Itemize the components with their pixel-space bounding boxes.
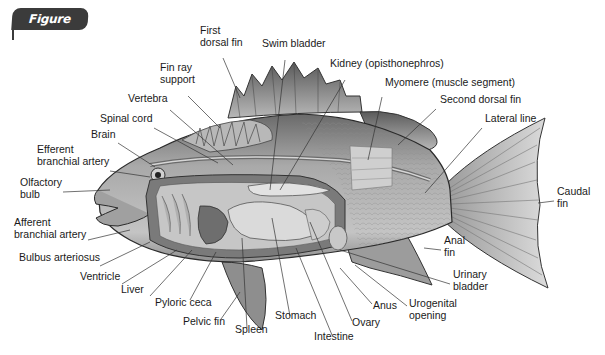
label-bulbus-arteriosus: Bulbus arteriosus — [19, 251, 100, 263]
leader-caudal-fin — [538, 201, 554, 203]
myomere-panel — [350, 146, 392, 190]
label-pyloric-ceca: Pyloric ceca — [155, 296, 212, 308]
label-ventricle: Ventricle — [80, 270, 120, 282]
urinary-bladder-shape — [329, 226, 347, 250]
label-lateral-line: Lateral line — [485, 112, 536, 124]
label-liver: Liver — [121, 283, 144, 295]
label-pelvic-fin: Pelvic fin — [183, 315, 225, 327]
label-stomach: Stomach — [275, 309, 316, 321]
label-efferent-branchial-artery: Efferent branchial artery — [37, 143, 109, 167]
leader-liver — [150, 250, 192, 296]
fish-anatomy-figure: Figure 15.20 First dorsal finSwim bladde… — [0, 0, 605, 355]
label-afferent-branchial-artery: Afferent branchial artery — [14, 216, 86, 240]
label-anus: Anus — [373, 299, 397, 311]
label-swim-bladder: Swim bladder — [262, 37, 326, 49]
label-first-dorsal-fin: First dorsal fin — [200, 24, 243, 48]
leader-anal-fin — [424, 248, 441, 250]
leader-fin-ray-support — [188, 96, 220, 128]
caudal-fin-shape — [445, 118, 548, 288]
label-spleen: Spleen — [235, 323, 268, 335]
label-intestine: Intestine — [314, 330, 354, 342]
label-fin-ray-support: Fin ray support — [160, 61, 195, 85]
leader-ventricle — [122, 250, 177, 284]
figure-badge: Figure 15.20 — [11, 8, 89, 30]
label-ovary: Ovary — [352, 316, 380, 328]
label-myomere: Myomere (muscle segment) — [385, 76, 515, 88]
label-kidney: Kidney (opisthonephros) — [330, 57, 444, 69]
label-olfactory-bulb: Olfactory bulb — [20, 176, 62, 200]
figure-badge-tail — [12, 30, 14, 40]
leader-bulbus-arteriosus — [100, 242, 150, 266]
label-vertebra: Vertebra — [128, 92, 168, 104]
label-brain: Brain — [91, 128, 116, 140]
leader-anus — [340, 268, 372, 304]
first-dorsal-fin-shape — [228, 62, 362, 118]
label-caudal-fin: Caudal fin — [557, 185, 590, 209]
label-second-dorsal-fin: Second dorsal fin — [440, 93, 521, 105]
fish-illustration — [0, 0, 605, 355]
label-spinal-cord: Spinal cord — [100, 112, 153, 124]
label-anal-fin: Anal fin — [444, 234, 465, 258]
label-urogenital-opening: Urogenital opening — [409, 297, 457, 321]
label-urinary-bladder: Urinary bladder — [453, 268, 488, 292]
leader-first-dorsal-fin — [223, 58, 240, 98]
